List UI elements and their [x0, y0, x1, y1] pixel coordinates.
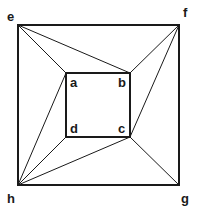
edge-g-c	[130, 137, 179, 185]
vertex-label-f: f	[183, 5, 188, 20]
edge-e-b	[18, 25, 130, 73]
edge-f-c	[130, 25, 179, 137]
vertex-label-a: a	[70, 75, 78, 90]
edge-f-b	[130, 25, 179, 73]
vertex-label-d: d	[70, 121, 78, 136]
vertex-label-c: c	[118, 121, 125, 136]
square-graph-diagram: e f g h a b c d	[0, 0, 197, 207]
edge-h-d	[18, 137, 66, 185]
edge-h-a	[18, 73, 66, 185]
edge-e-a	[18, 25, 66, 73]
vertex-label-e: e	[7, 9, 14, 24]
vertex-label-b: b	[118, 75, 126, 90]
edge-h-c	[18, 137, 130, 185]
vertex-label-g: g	[181, 191, 189, 206]
vertex-label-h: h	[7, 191, 15, 206]
